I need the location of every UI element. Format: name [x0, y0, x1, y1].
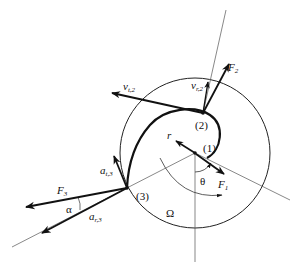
alpha-arc [78, 197, 80, 210]
theta-label: θ [200, 176, 205, 187]
vr2-label: vr,2 [191, 80, 203, 93]
omega-label: Ω [166, 208, 174, 219]
point2-label: (2) [195, 120, 208, 131]
vt2-arrow [112, 93, 203, 113]
ar3-arrow [42, 188, 127, 233]
theta-arc [195, 163, 211, 172]
vt2-label: vt,2 [123, 81, 135, 94]
diagram-svg [0, 0, 296, 270]
r-label: r [167, 130, 171, 141]
ar3-label: ar,3 [89, 211, 102, 224]
f3-arrow [26, 188, 127, 207]
omega-arc [160, 158, 222, 196]
f1-label: F1 [218, 179, 228, 192]
point3-label: (3) [136, 191, 149, 202]
at3-label: at,3 [100, 165, 113, 178]
radial-line-through-point2 [203, 10, 226, 113]
f3-label: F3 [57, 185, 67, 198]
diagram-canvas: F2 vt,2 vr,2 (2) r (1) θ F1 at,3 (3) F3 … [0, 0, 296, 270]
f2-label: F2 [228, 62, 238, 75]
r-arrow [176, 141, 195, 153]
point1-label: (1) [203, 143, 216, 154]
alpha-label: α [66, 204, 72, 215]
radial-line-lower-right [195, 153, 290, 200]
